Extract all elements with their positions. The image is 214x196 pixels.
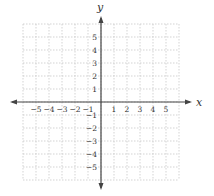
y-tick-label: 1	[92, 85, 97, 94]
x-tick-label: 5	[164, 105, 169, 114]
y-tick-label: −2	[86, 124, 97, 133]
y-tick-label: −1	[86, 111, 97, 120]
y-tick-label: 3	[92, 59, 97, 68]
y-tick-label: 2	[92, 72, 97, 81]
axes	[10, 16, 192, 190]
y-tick-label: −5	[86, 163, 97, 172]
x-tick-label: 1	[112, 105, 117, 114]
x-tick-label: −3	[56, 105, 67, 114]
coordinate-plane: x y −5−4−3−2−112345 54321−1−2−3−4−5	[0, 0, 214, 196]
x-tick-labels: −5−4−3−2−112345	[30, 105, 168, 114]
y-tick-label: −4	[86, 150, 97, 159]
y-tick-label: 4	[92, 46, 97, 55]
y-axis-up-arrow-icon	[99, 16, 104, 23]
x-tick-label: −4	[43, 105, 54, 114]
x-tick-label: −2	[69, 105, 80, 114]
x-axis-right-arrow-icon	[185, 100, 192, 105]
x-axis-left-arrow-icon	[10, 100, 17, 105]
y-tick-label: 5	[92, 33, 97, 42]
y-tick-label: −3	[86, 137, 97, 146]
x-tick-label: −5	[30, 105, 41, 114]
x-tick-label: 2	[125, 105, 130, 114]
y-axis-label: y	[96, 1, 104, 14]
x-tick-label: 4	[151, 105, 156, 114]
x-axis-label: x	[196, 96, 203, 109]
x-tick-label: 3	[138, 105, 143, 114]
y-axis-down-arrow-icon	[99, 183, 104, 190]
